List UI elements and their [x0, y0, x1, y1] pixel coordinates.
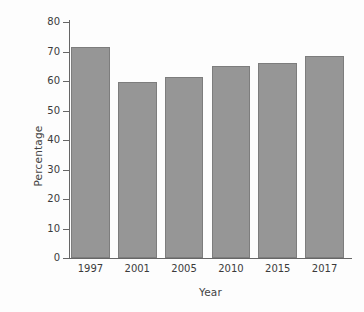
x-tick-label: 2010 — [212, 264, 251, 274]
y-tick-label: 20 — [20, 194, 60, 204]
plot-area — [70, 22, 351, 258]
y-tick-mark — [63, 199, 69, 200]
y-tick-label: 30 — [20, 165, 60, 175]
x-tick-label: 2017 — [305, 264, 344, 274]
x-tick-label: 2001 — [118, 264, 157, 274]
y-tick-label: 10 — [20, 224, 60, 234]
y-tick-mark — [63, 111, 69, 112]
x-axis-title: Year — [70, 286, 351, 298]
y-tick-mark — [63, 81, 69, 82]
bar — [212, 66, 251, 258]
y-tick-mark — [63, 140, 69, 141]
y-tick-label: 80 — [20, 17, 60, 27]
y-tick-mark — [63, 52, 69, 53]
y-tick-mark — [63, 170, 69, 171]
y-tick-label: 70 — [20, 47, 60, 57]
bar — [118, 82, 157, 258]
y-tick-label: 40 — [20, 135, 60, 145]
x-tick-label: 2015 — [258, 264, 297, 274]
bar — [258, 63, 297, 258]
y-tick-mark — [63, 258, 69, 259]
x-tick-label: 1997 — [71, 264, 110, 274]
x-tick-label: 2005 — [165, 264, 204, 274]
y-tick-mark — [63, 22, 69, 23]
bar-chart: Percentage 01020304050607080 19972001200… — [0, 0, 364, 312]
y-tick-label: 60 — [20, 76, 60, 86]
y-tick-label: 0 — [20, 253, 60, 263]
bar — [305, 56, 344, 258]
bar — [165, 77, 204, 258]
y-tick-label: 50 — [20, 106, 60, 116]
bar — [71, 47, 110, 258]
x-axis-line — [69, 258, 352, 259]
y-tick-mark — [63, 229, 69, 230]
